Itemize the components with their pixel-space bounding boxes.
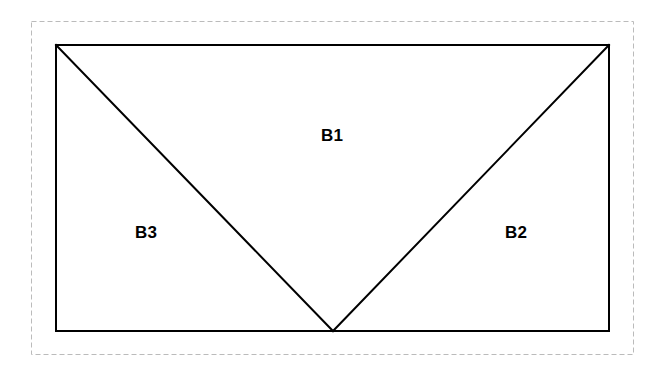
- region-label-b1: B1: [321, 127, 343, 144]
- region-label-b3: B3: [135, 224, 157, 241]
- solid-rectangle: [56, 45, 609, 331]
- figure-canvas: B1 B3 B2: [0, 0, 662, 377]
- figure-geometry: [0, 0, 662, 377]
- region-label-b2: B2: [505, 224, 527, 241]
